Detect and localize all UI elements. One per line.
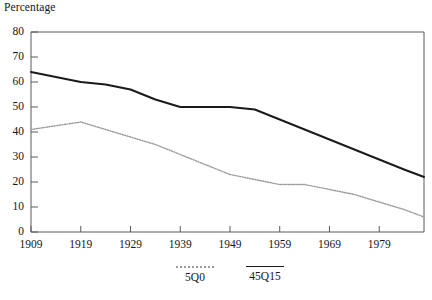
- series-line-5q0: [31, 122, 424, 217]
- plot-area: [0, 0, 432, 300]
- y-tick-label: 20: [2, 175, 24, 187]
- x-tick-label: 1909: [11, 238, 51, 250]
- y-tick-label: 10: [2, 200, 24, 212]
- chart-legend: 5Q045Q15: [0, 266, 432, 300]
- y-tick-label: 50: [2, 100, 24, 112]
- x-tick-label: 1919: [61, 238, 101, 250]
- legend-label: 45Q15: [225, 270, 305, 283]
- x-tick-label: 1949: [210, 238, 250, 250]
- legend-swatch-solid: [246, 266, 284, 267]
- legend-item-45q15: 45Q15: [225, 266, 305, 283]
- x-tick-label: 1979: [359, 238, 399, 250]
- legend-swatch-dotted: [176, 266, 214, 268]
- x-tick-label: 1939: [160, 238, 200, 250]
- y-tick-label: 30: [2, 150, 24, 162]
- y-tick-label: 40: [2, 125, 24, 137]
- y-tick-label: 0: [2, 225, 24, 237]
- legend-label: 5Q0: [155, 271, 235, 284]
- x-tick-label: 1959: [260, 238, 300, 250]
- y-tick-label: 60: [2, 75, 24, 87]
- legend-item-5q0: 5Q0: [155, 266, 235, 284]
- plot-frame: [31, 32, 424, 232]
- x-tick-label: 1969: [309, 238, 349, 250]
- y-tick-label: 80: [2, 25, 24, 37]
- chart-figure: Percentage 01020304050607080 19091919192…: [0, 0, 432, 300]
- y-tick-label: 70: [2, 50, 24, 62]
- x-tick-label: 1929: [110, 238, 150, 250]
